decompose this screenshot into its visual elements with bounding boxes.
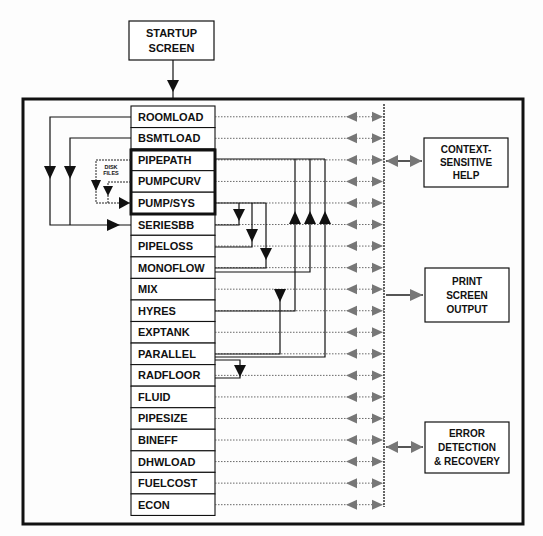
program-structure-diagram: STARTUP SCREEN ROOMLOADBSMTLOADPIPEPATHP… [0, 0, 543, 536]
right-arrow-icon [372, 478, 383, 488]
left-arrow-icon [346, 435, 357, 445]
print-line2: SCREEN [446, 290, 488, 301]
module-econ: ECON [131, 494, 384, 516]
down-arrow-icon [234, 365, 246, 377]
up-arrow-icon [319, 211, 331, 224]
module-label: HYRES [138, 305, 176, 317]
down-arrow-icon [274, 289, 286, 302]
error-line1: ERROR [449, 428, 486, 439]
left-arrow-icon [346, 327, 357, 337]
right-arrow-icon [372, 112, 383, 122]
down-arrow-icon [103, 186, 113, 196]
left-arrow-icon [346, 306, 357, 316]
disk-files-label-2: FILES [103, 170, 119, 176]
right-arrow-icon [372, 284, 383, 294]
module-label: PUMPCURV [138, 175, 201, 187]
error-line3: & RECOVERY [434, 456, 500, 467]
mix-connector [215, 294, 280, 354]
module-exptank: EXPTANK [131, 322, 384, 344]
up-arrow-icon [289, 211, 301, 224]
help-double-arrow-icon [386, 155, 422, 167]
right-arrow-icon [372, 198, 383, 208]
module-roomload: ROOMLOAD [131, 106, 384, 128]
right-arrow-icon [119, 197, 130, 209]
module-label: EXPTANK [138, 326, 190, 338]
error-line2: DETECTION [438, 442, 496, 453]
right-arrow-icon [372, 370, 383, 380]
right-arrow-icon [372, 176, 383, 186]
right-arrow-icon [372, 413, 383, 423]
left-arrow-icon [346, 500, 357, 510]
left-arrow-icon [346, 220, 357, 230]
left-arrow-icon [346, 349, 357, 359]
startup-arrow [167, 60, 179, 99]
module-label: FLUID [138, 391, 170, 403]
right-arrow-icon [372, 435, 383, 445]
help-line2: SENSITIVE [440, 157, 493, 168]
left-arrow-icon [346, 241, 357, 251]
module-label: SERIESBB [138, 219, 194, 231]
down-arrow-icon [64, 166, 76, 179]
pipepath-feedback-connectors [215, 159, 325, 357]
module-label: PIPEPATH [138, 154, 191, 166]
right-arrow-icon [372, 263, 383, 273]
startup-line2: SCREEN [149, 42, 195, 54]
left-arrow-icon [346, 133, 357, 143]
module-bineff: BINEFF [131, 429, 384, 451]
module-label: PIPESIZE [138, 412, 188, 424]
module-fuelcost: FUELCOST [131, 472, 384, 494]
down-arrow-icon [246, 229, 258, 242]
print-line3: OUTPUT [446, 304, 487, 315]
up-arrow-icon [304, 211, 316, 224]
module-seriesbb: SERIESBB [131, 214, 384, 236]
right-arrow-icon [372, 327, 383, 337]
module-mix: MIX [131, 278, 384, 300]
module-label: ECON [138, 499, 170, 511]
right-arrow-icon [107, 219, 120, 231]
left-arrow-icon [346, 392, 357, 402]
help-line1: CONTEXT- [441, 144, 492, 155]
error-recovery-box: ERROR DETECTION & RECOVERY [425, 422, 509, 473]
left-arrow-icon [346, 263, 357, 273]
right-arrow-icon [372, 349, 383, 359]
right-arrow-icon [372, 241, 383, 251]
left-arrow-icon [346, 155, 357, 165]
module-radfloor: RADFLOOR [131, 365, 384, 387]
left-arrow-icon [346, 457, 357, 467]
left-arrow-icon [346, 370, 357, 380]
module-label: PARALLEL [138, 348, 196, 360]
left-arrow-icon [346, 413, 357, 423]
down-arrow-icon [233, 209, 245, 221]
left-arrow-icon [346, 478, 357, 488]
right-arrow-icon [372, 133, 383, 143]
right-arrow-icon [372, 220, 383, 230]
module-label: MONOFLOW [138, 262, 205, 274]
module-pumpcurv: PUMPCURV [131, 171, 384, 193]
module-dhwload: DHWLOAD [131, 451, 384, 473]
print-screen-box: PRINT SCREEN OUTPUT [425, 268, 509, 322]
left-arrow-icon [346, 284, 357, 294]
module-label: BSMTLOAD [138, 132, 200, 144]
module-fluid: FLUID [131, 386, 384, 408]
roomload-bsmtload-connectors [50, 117, 131, 225]
module-label: BINEFF [138, 434, 178, 446]
module-label: RADFLOOR [138, 369, 200, 381]
context-help-box: CONTEXT- SENSITIVE HELP [424, 138, 508, 187]
module-pipesize: PIPESIZE [131, 408, 384, 430]
module-label: PIPELOSS [138, 240, 193, 252]
down-arrow-icon [44, 166, 56, 179]
help-line3: HELP [453, 170, 480, 181]
module-bsmtload: BSMTLOAD [131, 128, 384, 150]
print-arrow-icon [386, 289, 423, 301]
module-label: MIX [138, 283, 158, 295]
left-arrow-icon [346, 112, 357, 122]
left-arrow-icon [346, 176, 357, 186]
startup-line1: STARTUP [146, 27, 197, 39]
module-label: DHWLOAD [138, 456, 195, 468]
down-arrow-icon [91, 180, 101, 191]
module-pipepath: PIPEPATH [131, 149, 384, 171]
print-line1: PRINT [452, 276, 482, 287]
right-arrow-icon [372, 392, 383, 402]
module-pipeloss: PIPELOSS [131, 235, 384, 257]
startup-screen-box: STARTUP SCREEN [129, 21, 214, 60]
